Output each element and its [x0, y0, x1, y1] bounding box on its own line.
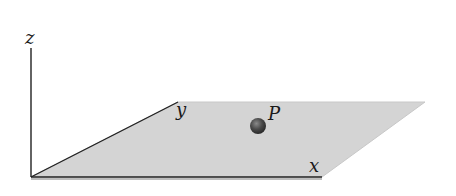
- point-p-label: P: [268, 105, 280, 123]
- point-p-marker: [250, 118, 266, 134]
- x-axis-label: x: [309, 157, 319, 175]
- diagram-canvas: [0, 0, 456, 196]
- y-axis-label: y: [176, 101, 186, 119]
- xy-plane: [31, 102, 425, 177]
- z-axis-label: z: [25, 29, 34, 47]
- coordinate-plane-diagram: z y x P: [0, 0, 456, 196]
